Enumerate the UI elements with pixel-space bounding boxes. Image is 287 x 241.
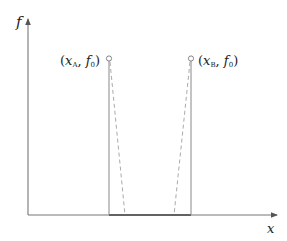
dashed-line-a (110, 62, 125, 215)
y-axis-label: f (15, 13, 24, 31)
point-b-label: (xB, f0) (198, 53, 238, 69)
x-axis-label: x (267, 221, 275, 236)
point-a-marker (106, 56, 111, 61)
dashed-line-b (174, 62, 190, 215)
diagram-figure: f x (xA, f0) (xB, f0) (0, 0, 287, 241)
point-a-label: (xA, f0) (60, 53, 100, 69)
point-b-marker (188, 56, 193, 61)
